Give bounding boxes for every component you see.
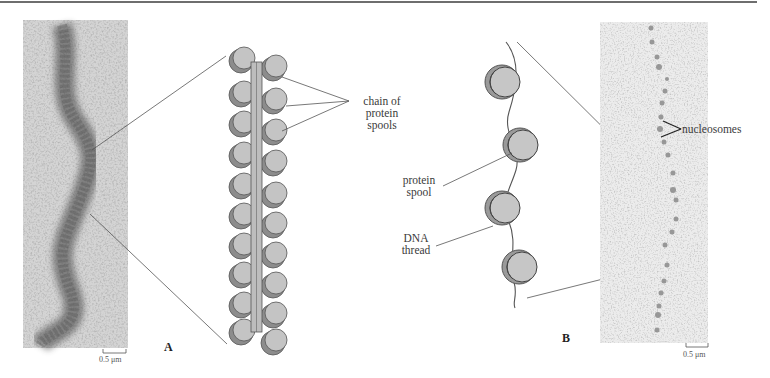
micrograph-a <box>23 20 128 348</box>
micrograph-b <box>600 22 708 343</box>
chain-of-protein-spools-label: chain of protein spools <box>350 95 414 131</box>
nucleosomes-label: nucleosomes <box>682 123 741 135</box>
scale-bar-a <box>103 349 126 353</box>
figure-graphics <box>0 0 770 378</box>
panel-letter-b: B <box>562 331 570 346</box>
scale-label-a: 0.5 μm <box>99 355 122 364</box>
dna-thread-label: DNA thread <box>396 232 436 256</box>
protein-spools-b <box>485 65 538 284</box>
scale-bar-b <box>686 343 708 347</box>
spool-chain-diagram <box>229 47 287 355</box>
protein-spool-label: protein spool <box>396 174 442 198</box>
scale-label-b: 0.5 μm <box>683 350 706 359</box>
panel-letter-a: A <box>164 340 173 355</box>
